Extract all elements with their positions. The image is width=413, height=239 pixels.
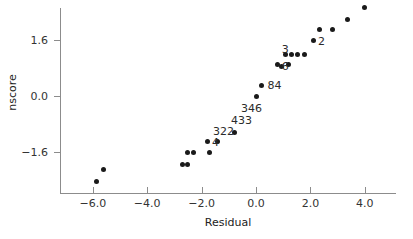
data-point: [207, 150, 212, 155]
data-point: [289, 52, 294, 57]
y-axis-title: nscore: [6, 63, 19, 123]
data-point: [302, 52, 307, 57]
data-point: [191, 150, 196, 155]
data-point: [254, 94, 259, 99]
data-point: [295, 52, 300, 57]
point-label: 4: [212, 137, 219, 148]
normal-probability-plot: 1.60.0−1.6 −6.0−4.0−2.00.02.04.0 3628434…: [0, 0, 413, 239]
data-point: [185, 150, 190, 155]
point-label: 84: [267, 80, 281, 91]
data-point: [101, 167, 106, 172]
data-point: [311, 38, 316, 43]
data-point: [317, 27, 322, 32]
point-label: 433: [231, 115, 252, 126]
point-label: 6: [282, 61, 289, 72]
data-point: [330, 27, 335, 32]
data-point: [185, 162, 190, 167]
point-label: 2: [318, 36, 325, 47]
point-label: 346: [241, 103, 262, 114]
point-label: 3: [282, 44, 289, 55]
x-axis-title: Residual: [60, 216, 396, 229]
plot-area: 362843464333224: [0, 0, 413, 239]
data-point: [362, 5, 367, 10]
data-point: [94, 179, 99, 184]
data-point: [205, 139, 210, 144]
data-point: [345, 17, 350, 22]
data-point: [259, 83, 264, 88]
